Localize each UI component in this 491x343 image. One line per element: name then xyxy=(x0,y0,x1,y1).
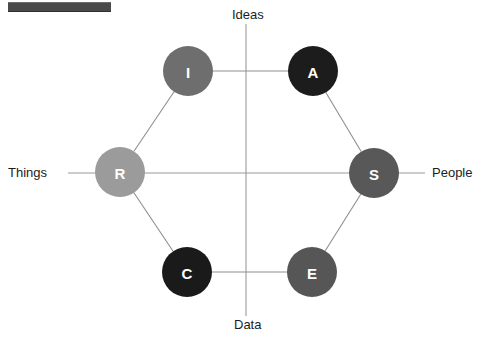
node-r[interactable]: R xyxy=(95,147,145,197)
node-e[interactable]: E xyxy=(287,247,337,297)
hexagon-nodes-group: IASECR xyxy=(95,46,399,297)
figure-canvas: IASECR Ideas Data Things People xyxy=(0,0,491,343)
node-circle-a[interactable] xyxy=(288,46,338,96)
hexagon-edge-s-e xyxy=(325,194,360,251)
node-circle-i[interactable] xyxy=(163,46,213,96)
hexagon-edges-group xyxy=(134,71,361,272)
hexagon-edge-a-s xyxy=(326,92,361,151)
node-circle-c[interactable] xyxy=(162,247,212,297)
hexagon-edge-c-r xyxy=(134,193,173,251)
riasec-hexagon-diagram: IASECR xyxy=(0,0,491,343)
hexagon-edge-r-i xyxy=(134,92,174,152)
node-i[interactable]: I xyxy=(163,46,213,96)
node-s[interactable]: S xyxy=(349,148,399,198)
axis-label-things: Things xyxy=(8,166,47,179)
axis-label-people: People xyxy=(432,166,472,179)
node-circle-r[interactable] xyxy=(95,147,145,197)
node-circle-s[interactable] xyxy=(349,148,399,198)
axis-label-data: Data xyxy=(234,318,261,331)
node-c[interactable]: C xyxy=(162,247,212,297)
node-a[interactable]: A xyxy=(288,46,338,96)
node-circle-e[interactable] xyxy=(287,247,337,297)
axis-label-ideas: Ideas xyxy=(232,8,264,21)
